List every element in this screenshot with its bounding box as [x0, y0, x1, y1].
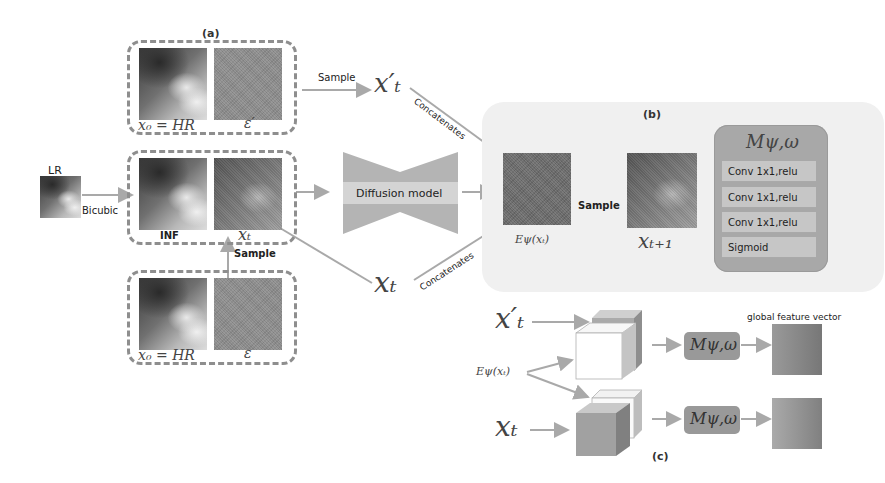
global-feature-top: [772, 324, 822, 375]
panel-c-m-bottom: Mψ,ω: [684, 406, 740, 434]
panel-c-m-top-label: Mψ,ω: [690, 335, 737, 354]
concat-cubes: [0, 0, 885, 483]
panel-c-m-top: Mψ,ω: [684, 332, 740, 360]
global-feature-bottom: [772, 398, 822, 449]
panel-c-label: (c): [652, 450, 669, 463]
panel-c-m-bottom-label: Mψ,ω: [690, 409, 737, 428]
global-feature-label: global feature vector: [747, 312, 841, 322]
